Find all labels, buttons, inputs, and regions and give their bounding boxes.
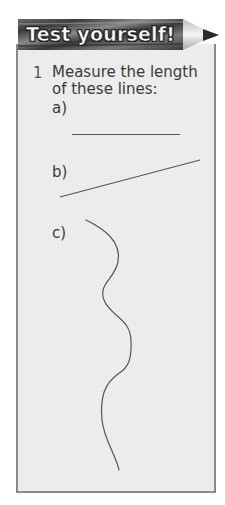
pencil-lead: [203, 29, 219, 41]
part-a-label: a): [52, 99, 67, 117]
section-title: Test yourself!: [26, 23, 175, 45]
part-b-label: b): [52, 163, 67, 181]
exercise-panel: [16, 44, 216, 493]
question-text: Measure the length of these lines:: [52, 64, 210, 98]
question-number: 1: [33, 64, 43, 82]
pencil-tip: [183, 19, 205, 50]
part-c-label: c): [52, 224, 66, 242]
